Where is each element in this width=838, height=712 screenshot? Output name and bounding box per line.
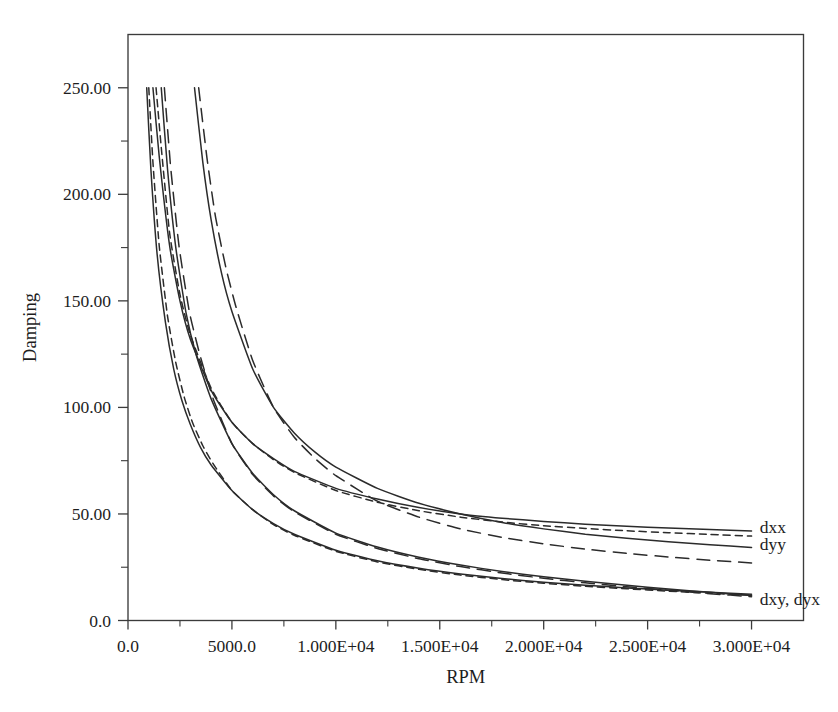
y-axis-title: Damping: [20, 293, 40, 362]
curve-lower-dash: [164, 88, 751, 597]
y-tick-label-4: 200.00: [63, 184, 111, 204]
y-tick-label-1: 50.00: [72, 504, 112, 524]
y-tick-label-0: 0.0: [89, 611, 111, 631]
curve-dyy-pair: [199, 88, 752, 563]
y-tick-label-5: 250.00: [63, 78, 111, 98]
y-axis-tick-labels: 0.050.00100.00150.00200.00250.00: [63, 78, 111, 631]
series-label-dxy--dyx: dxy, dyx: [760, 589, 820, 609]
x-tick-label-6: 3.000E+04: [713, 636, 791, 656]
figure-container: 0.05000.01.000E+041.500E+042.000E+042.50…: [0, 0, 838, 712]
x-tick-label-2: 1.000E+04: [297, 636, 375, 656]
plot-frame: [128, 35, 804, 621]
damping-vs-rpm-chart: 0.05000.01.000E+041.500E+042.000E+042.50…: [0, 0, 838, 712]
x-tick-label-1: 5000.0: [208, 636, 256, 656]
curve-dxx-pair: [156, 88, 751, 536]
series-annotations: dxxdyydxy, dyx: [760, 517, 820, 609]
curve-dyy: [195, 88, 752, 548]
x-tick-label-4: 2.000E+04: [505, 636, 583, 656]
y-tick-label-3: 150.00: [63, 291, 111, 311]
x-tick-label-5: 2.500E+04: [609, 636, 687, 656]
page-artifact-text: [0, 0, 838, 6]
series-curves: [147, 88, 752, 597]
x-axis-tick-labels: 0.05000.01.000E+041.500E+042.000E+042.50…: [117, 636, 790, 656]
y-tick-label-2: 100.00: [63, 397, 111, 417]
curve-dxy: [147, 88, 752, 595]
curve-lower-solid: [161, 88, 751, 596]
x-tick-label-3: 1.500E+04: [401, 636, 479, 656]
series-label-dyy: dyy: [760, 534, 787, 554]
curve-dxx: [153, 88, 752, 531]
x-tick-label-0: 0.0: [117, 636, 139, 656]
plot-border: [128, 35, 804, 621]
axis-ticks: [118, 88, 752, 630]
curve-dyx: [149, 88, 752, 595]
x-axis-title: RPM: [446, 667, 485, 687]
